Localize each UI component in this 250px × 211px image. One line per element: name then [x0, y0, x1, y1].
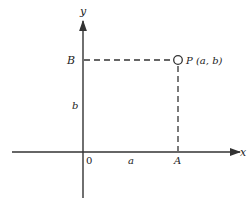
- point-b-label: B: [66, 54, 75, 67]
- origin-label: 0: [86, 155, 92, 166]
- coordinate-diagram: y x 0 B b a A P (a, b): [0, 0, 250, 211]
- point-a-label: A: [173, 155, 181, 166]
- distance-a-label: a: [128, 155, 134, 166]
- distance-b-label: b: [72, 100, 78, 111]
- point-p-label: P (a, b): [185, 55, 223, 66]
- point-p-marker-icon: [174, 56, 183, 65]
- y-axis-label: y: [79, 5, 87, 18]
- x-axis-label: x: [240, 146, 247, 159]
